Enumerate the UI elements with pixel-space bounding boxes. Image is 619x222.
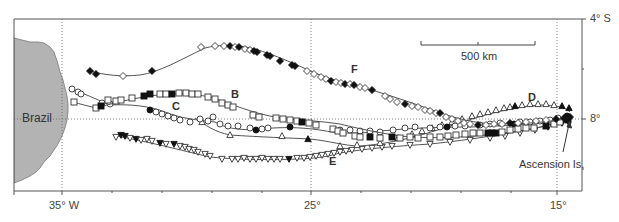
y-tick-label-4s: 4° S: [590, 12, 611, 24]
track-label-e: E: [329, 155, 336, 167]
ascension-arrow: [563, 121, 572, 152]
scale-bar-label: 500 km: [461, 50, 497, 62]
scale-bar: [421, 41, 535, 45]
x-tick-label-15: 15°: [550, 199, 567, 211]
x-tick-label-35w: 35° W: [49, 199, 79, 211]
x-tick-label-25: 25°: [304, 199, 321, 211]
track-label-d: D: [528, 91, 536, 103]
y-tick-label-8: 8°: [590, 112, 601, 124]
brazil-label: Brazil: [22, 111, 52, 125]
track-label-f: F: [351, 63, 358, 75]
track-label-b: B: [231, 88, 239, 100]
track-b: [71, 90, 571, 141]
map-figure: [0, 0, 619, 222]
track-label-c: C: [172, 100, 180, 112]
ascension-island-label: Ascension Is.: [519, 158, 584, 170]
